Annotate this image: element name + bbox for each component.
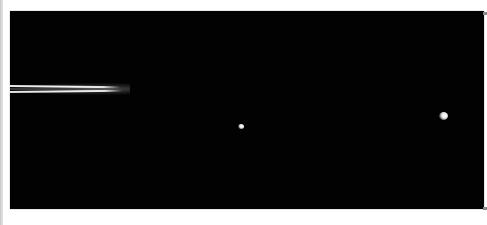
frame-corner-mark-top [483, 12, 487, 15]
frame-corner-mark-bottom [483, 207, 487, 210]
left-edge-strip [0, 0, 3, 225]
space-photo-frame [10, 11, 484, 209]
moon-larger [439, 112, 448, 120]
moon-small [238, 124, 244, 129]
